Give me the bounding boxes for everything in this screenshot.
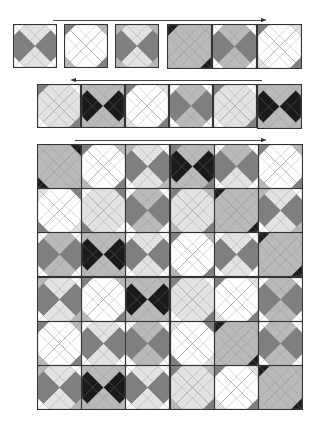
grid-block-r5-c4 xyxy=(170,321,215,366)
grid-block-r3-c2 xyxy=(81,232,126,277)
row1-block-6 xyxy=(257,24,302,69)
grid-block-r1-c1 xyxy=(37,144,82,189)
grid-block-r1-c3 xyxy=(125,144,170,189)
grid-block-r4-c4 xyxy=(170,277,215,322)
row2-block-2 xyxy=(81,84,125,128)
arrowhead-icon xyxy=(261,18,267,22)
row1-block-5 xyxy=(212,24,257,69)
grid-block-r5-c3 xyxy=(125,321,170,366)
grid-block-r2-c1 xyxy=(37,188,82,233)
grid-block-r5-c5 xyxy=(214,321,259,366)
grid-block-r4-c5 xyxy=(214,277,259,322)
grid-block-r3-c1 xyxy=(37,232,82,277)
grid-block-r2-c4 xyxy=(170,188,215,233)
row1-block-1 xyxy=(13,24,57,68)
row2-block-6 xyxy=(257,84,302,129)
grid-block-r6-c6 xyxy=(258,365,303,410)
grid-block-r1-c5 xyxy=(214,144,259,189)
grid-block-r3-c3 xyxy=(125,232,170,277)
arrow-grid-right-arrow-icon xyxy=(75,140,262,141)
grid-block-r1-c6 xyxy=(258,144,303,189)
grid-block-r2-c3 xyxy=(125,188,170,233)
grid-block-r3-c5 xyxy=(214,232,259,277)
grid-block-r5-c6 xyxy=(258,321,303,366)
grid-block-r4-c3 xyxy=(125,277,170,322)
row2-block-3 xyxy=(125,84,169,128)
row1-block-3 xyxy=(115,24,159,68)
grid-block-r3-c6 xyxy=(258,232,303,277)
row2-block-4 xyxy=(169,84,213,128)
grid-block-r1-c2 xyxy=(81,144,126,189)
grid-block-r6-c5 xyxy=(214,365,259,410)
grid-block-r2-c2 xyxy=(81,188,126,233)
grid-block-r2-c5 xyxy=(214,188,259,233)
row1-block-4 xyxy=(167,24,212,69)
row2-block-5 xyxy=(213,84,257,128)
arrowhead-icon xyxy=(70,78,76,82)
grid-block-r3-c4 xyxy=(170,232,215,277)
grid-block-r6-c4 xyxy=(170,365,215,410)
grid-block-r6-c2 xyxy=(81,365,126,410)
grid-block-r6-c3 xyxy=(125,365,170,410)
arrowhead-icon xyxy=(261,138,267,142)
row2-block-1 xyxy=(37,84,81,128)
grid-block-r4-c1 xyxy=(37,277,82,322)
grid-block-r5-c2 xyxy=(81,321,126,366)
grid-block-r1-c4 xyxy=(170,144,215,189)
grid-block-r4-c6 xyxy=(258,277,303,322)
arrow-row2-left-arrow-icon xyxy=(75,80,262,81)
grid-block-r6-c1 xyxy=(37,365,82,410)
grid-block-r5-c1 xyxy=(37,321,82,366)
arrow-row1-right-arrow-icon xyxy=(53,20,262,21)
row1-block-2 xyxy=(64,24,108,68)
grid-block-r4-c2 xyxy=(81,277,126,322)
grid-block-r2-c6 xyxy=(258,188,303,233)
